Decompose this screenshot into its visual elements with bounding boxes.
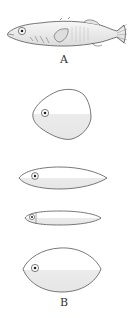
shape-slender [25, 211, 101, 225]
panel-label-b: B [0, 296, 128, 309]
shape-fusiform [19, 167, 107, 189]
figure-canvas [0, 0, 128, 318]
shape-lens [23, 248, 101, 292]
panel-label-a: A [0, 53, 128, 66]
fish-drawing-a [7, 17, 127, 46]
shape-deep-rhomboid [33, 89, 91, 139]
